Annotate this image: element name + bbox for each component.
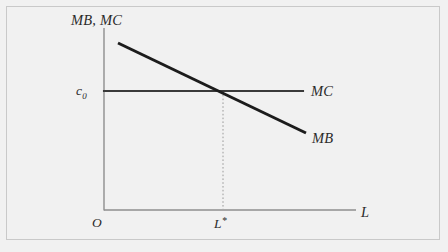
x-axis-label: L xyxy=(361,205,369,220)
origin-label: O xyxy=(92,216,102,230)
mb-curve xyxy=(118,43,306,133)
l-star-superscript: * xyxy=(222,215,227,226)
c-zero-label: c0 xyxy=(76,84,87,101)
mb-curve-label: MB xyxy=(312,131,333,146)
l-star-base: L xyxy=(214,216,222,231)
mc-curve-label: MC xyxy=(311,84,333,99)
y-axis-label: MB, MC xyxy=(71,13,122,28)
c-zero-subscript: 0 xyxy=(82,91,87,101)
l-star-label: L* xyxy=(214,216,227,230)
figure-screenshot: MB, MC L O c0 L* MC MB xyxy=(0,0,448,252)
